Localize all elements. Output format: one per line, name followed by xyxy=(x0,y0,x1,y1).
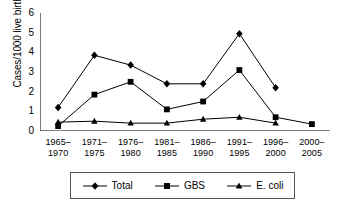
data-point-diamond xyxy=(164,80,171,88)
data-point-square xyxy=(236,67,242,73)
legend: TotalGBSE. coli xyxy=(70,172,295,199)
line-chart: Cases/1000 live births 0123456 1965–1970… xyxy=(0,0,340,206)
legend-key-square-icon xyxy=(154,180,180,192)
x-tick-label-line: 2000– xyxy=(289,137,335,148)
legend-key-triangle-icon xyxy=(226,180,252,192)
legend-item-e-coli: E. coli xyxy=(226,180,283,192)
plot-area xyxy=(40,13,330,131)
y-tick-label: 2 xyxy=(20,87,34,97)
data-point-triangle xyxy=(236,114,242,120)
legend-marker-diamond xyxy=(91,182,98,190)
legend-item-gbs: GBS xyxy=(154,180,205,192)
y-tick-label: 0 xyxy=(20,126,34,136)
legend-marker-square xyxy=(164,183,170,189)
legend-label: GBS xyxy=(184,180,205,191)
legend-key-diamond-icon xyxy=(82,180,108,192)
y-tick-label: 5 xyxy=(20,28,34,38)
legend-item-total: Total xyxy=(82,180,133,192)
series-canvas xyxy=(40,13,330,131)
y-tick-label: 3 xyxy=(20,67,34,77)
series-line-total xyxy=(58,34,276,108)
data-point-diamond xyxy=(127,61,134,69)
x-tick-label-line: 2005 xyxy=(289,148,335,159)
legend-label: E. coli xyxy=(256,180,283,191)
x-tick-label: 2000–2005 xyxy=(289,137,335,159)
legend-label: Total xyxy=(112,180,133,191)
data-point-square xyxy=(91,92,97,98)
data-point-square xyxy=(128,79,134,85)
data-point-square xyxy=(200,99,206,105)
data-point-square xyxy=(309,121,315,127)
y-tick-label: 6 xyxy=(20,8,34,18)
y-tick-label: 1 xyxy=(20,106,34,116)
data-point-square xyxy=(273,114,279,120)
y-tick-label: 4 xyxy=(20,47,34,57)
data-point-square xyxy=(164,106,170,112)
